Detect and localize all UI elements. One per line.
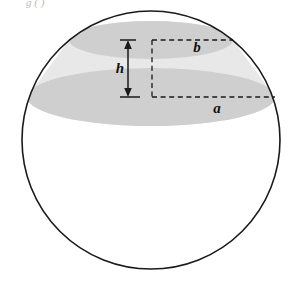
lower-circular-section-a <box>27 68 275 126</box>
label-radius-b: b <box>193 39 201 55</box>
label-height-h: h <box>116 60 124 76</box>
label-radius-a: a <box>213 100 221 116</box>
clipped-header-text: g ( ) <box>26 0 45 9</box>
geometry-figure: b a h g ( ) <box>0 0 296 286</box>
sphere-zone-diagram-svg: b a h g ( ) <box>0 0 296 286</box>
shaded-regions-group <box>27 21 275 126</box>
